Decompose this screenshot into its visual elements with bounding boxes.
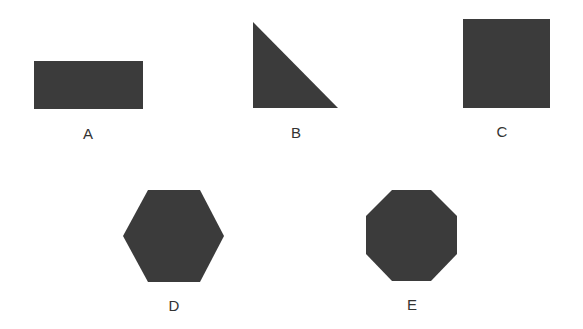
shape-b-group: B [253, 22, 338, 141]
shapes-diagram: A B C D E [0, 0, 583, 329]
shape-b-label: B [291, 124, 301, 141]
shape-a-label: A [83, 125, 93, 142]
shape-d-group: D [123, 190, 224, 314]
shape-e-label: E [407, 296, 417, 313]
square-shape [463, 19, 550, 108]
triangle-shape [253, 22, 338, 108]
shape-e-group: E [366, 190, 457, 313]
shape-d-label: D [169, 297, 180, 314]
shape-c-label: C [497, 123, 508, 140]
hexagon-shape [123, 190, 224, 282]
rectangle-shape [34, 61, 143, 109]
shape-a-group: A [34, 61, 143, 142]
shape-c-group: C [463, 19, 550, 140]
octagon-shape [366, 190, 457, 281]
